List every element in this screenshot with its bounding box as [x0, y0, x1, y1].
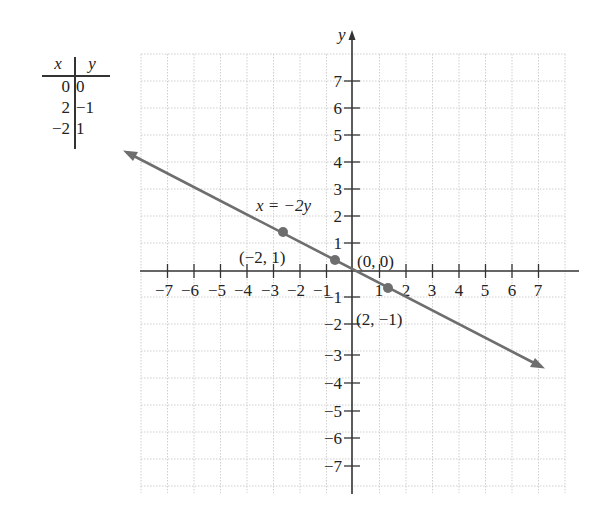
y-axis-arrow-icon [349, 30, 356, 40]
svg-text:−2: −2 [287, 281, 305, 300]
svg-text:−4: −4 [324, 374, 343, 393]
svg-text:6: 6 [508, 281, 517, 300]
svg-text:5: 5 [481, 281, 490, 300]
svg-text:2: 2 [334, 207, 343, 226]
point-0-0 [330, 255, 340, 265]
line-arrow-left-icon [123, 151, 138, 162]
svg-text:5: 5 [334, 126, 343, 145]
svg-text:−7: −7 [155, 281, 174, 300]
graph-figure: x y 0 0 2 −1 −2 1 [0, 0, 611, 515]
point-label-2-neg1: (2, −1) [356, 310, 402, 329]
svg-text:−3: −3 [324, 346, 342, 365]
svg-text:−5: −5 [324, 402, 342, 421]
grid [141, 54, 565, 493]
equation-label: x = −2y [255, 196, 311, 215]
svg-text:−7: −7 [324, 457, 343, 476]
point-neg2-1 [278, 227, 288, 237]
svg-text:−1: −1 [324, 288, 342, 307]
svg-text:3: 3 [334, 180, 343, 199]
point-label-0-0: (0, 0) [357, 252, 394, 271]
point-2-neg1 [383, 283, 393, 293]
svg-text:−5: −5 [208, 281, 226, 300]
line-arrow-right-icon [530, 358, 545, 369]
svg-text:−3: −3 [261, 281, 279, 300]
svg-text:−6: −6 [181, 281, 199, 300]
svg-text:7: 7 [334, 72, 343, 91]
svg-text:4: 4 [455, 281, 464, 300]
svg-text:6: 6 [334, 99, 343, 118]
svg-text:1: 1 [334, 234, 343, 253]
svg-text:3: 3 [428, 281, 437, 300]
coordinate-plane: −7 −6 −5 −4 −3 −2 −1 1 2 3 4 5 6 7 7 6 5… [0, 0, 611, 515]
svg-text:−6: −6 [324, 429, 342, 448]
svg-text:4: 4 [334, 153, 343, 172]
y-axis-label: y [336, 25, 346, 44]
svg-text:7: 7 [534, 281, 543, 300]
svg-text:−4: −4 [234, 281, 253, 300]
point-label-neg2-1: (−2, 1) [239, 248, 285, 267]
svg-text:−2: −2 [324, 315, 342, 334]
